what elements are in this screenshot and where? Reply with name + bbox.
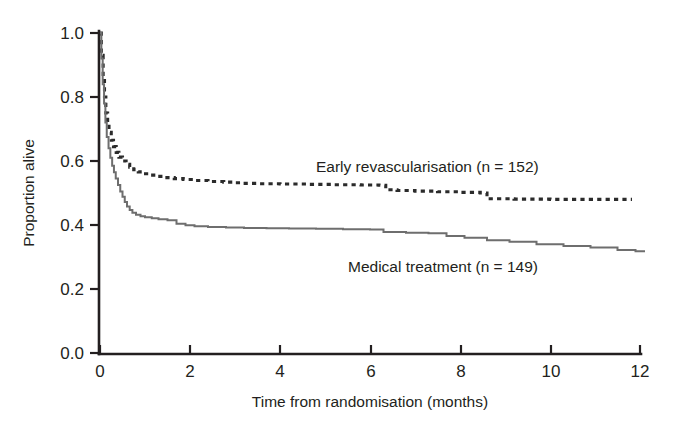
y-tick-label-1: 1.0 — [60, 24, 84, 43]
series-label-medical-treatment: Medical treatment (n = 149) — [348, 258, 538, 275]
y-tick-label-5: 0.2 — [60, 280, 84, 299]
x-tick-marks — [100, 345, 640, 354]
y-tick-marks — [90, 33, 99, 353]
x-tick-label-6: 6 — [366, 362, 375, 381]
x-tick-label-8: 8 — [456, 362, 465, 381]
x-tick-label-4: 4 — [275, 362, 284, 381]
x-tick-label-12: 12 — [631, 362, 650, 381]
y-tick-label-3: 0.6 — [60, 152, 84, 171]
x-tick-label-0: 0 — [95, 362, 104, 381]
y-tick-label-6: 0.0 — [60, 344, 84, 363]
x-tick-label-2: 2 — [185, 362, 194, 381]
x-tick-label-10: 10 — [542, 362, 561, 381]
y-axis-title: Proportion alive — [20, 139, 37, 247]
kaplan-meier-chart: 1.0 0.8 0.6 0.4 0.2 0.0 0 2 4 6 8 10 12 — [0, 0, 674, 431]
x-axis-title: Time from randomisation (months) — [252, 393, 488, 410]
series-medical-treatment-line — [100, 33, 645, 251]
survival-chart-figure: 1.0 0.8 0.6 0.4 0.2 0.0 0 2 4 6 8 10 12 — [0, 0, 674, 431]
y-tick-labels: 1.0 0.8 0.6 0.4 0.2 0.0 — [60, 24, 84, 363]
y-tick-label-4: 0.4 — [60, 216, 84, 235]
x-tick-labels: 0 2 4 6 8 10 12 — [95, 362, 649, 381]
y-tick-label-2: 0.8 — [60, 88, 84, 107]
series-label-early-revascularisation: Early revascularisation (n = 152) — [316, 158, 539, 175]
